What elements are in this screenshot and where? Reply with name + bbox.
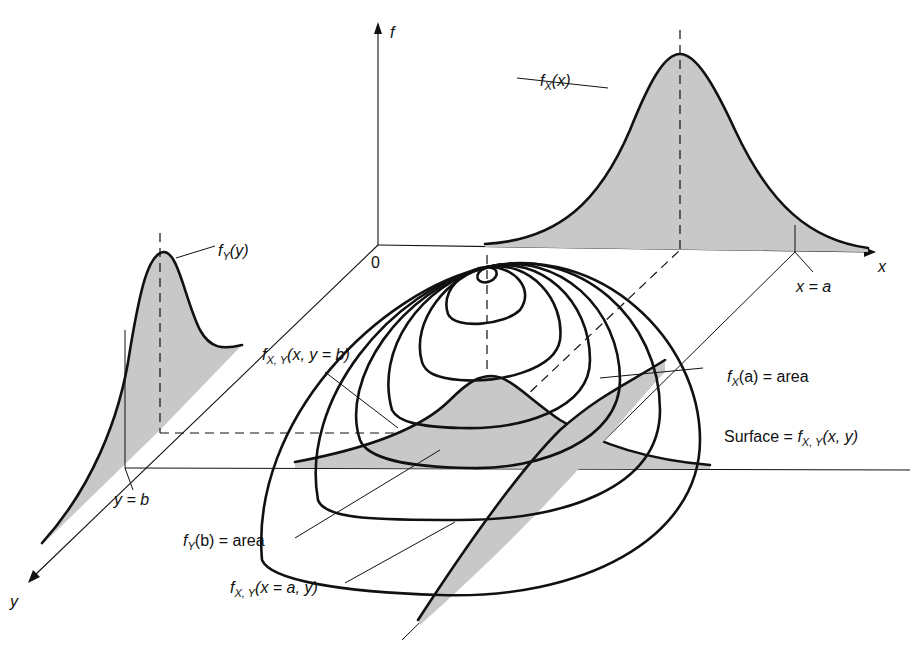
surface-label: Surface = fX, Y(x, y) bbox=[724, 428, 858, 448]
fx-a-area-label: fX(a) = area bbox=[727, 368, 809, 388]
f-axis-label: f bbox=[390, 24, 396, 41]
fx-x-label: fX(x) bbox=[540, 72, 570, 92]
f-axis-arrow-icon bbox=[374, 22, 382, 34]
y-equals-b-label: y = b bbox=[113, 491, 149, 508]
y-axis-label: y bbox=[9, 593, 19, 610]
joint-density-diagram: f x y 0 fX(x) fY(y) x = a y = b fX, Y(x,… bbox=[0, 0, 921, 659]
x-axis-label: x bbox=[877, 258, 887, 275]
marginal-fx-curve bbox=[485, 30, 868, 252]
leader-fxy-x-a bbox=[345, 522, 455, 583]
leader-x-equals-a bbox=[795, 252, 813, 272]
fy-b-area-label: fY(b) = area bbox=[183, 532, 265, 552]
fxy-x-a-label: fX, Y(x = a, y) bbox=[230, 579, 318, 599]
y-axis bbox=[34, 245, 378, 576]
origin-label: 0 bbox=[371, 254, 380, 271]
x-equals-a-label: x = a bbox=[795, 278, 831, 295]
fy-y-label: fY(y) bbox=[218, 242, 248, 262]
